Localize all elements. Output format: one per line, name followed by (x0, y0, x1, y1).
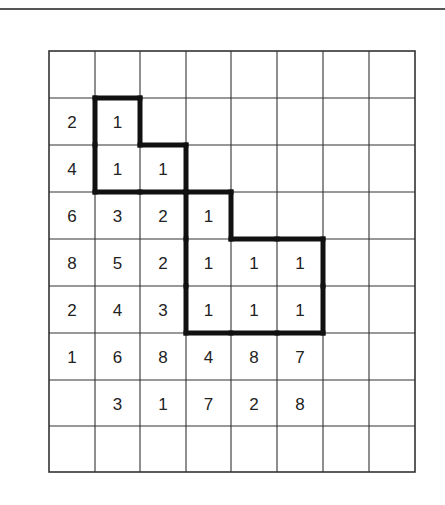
grid-border (49, 51, 415, 472)
grid-cell-value: 1 (249, 254, 258, 273)
grid-cell-value: 1 (295, 254, 304, 273)
grid-cell-value: 8 (249, 348, 258, 367)
grid-cell-value: 3 (113, 395, 122, 414)
grid-cell-value: 2 (158, 207, 167, 226)
grid-cell-value: 7 (204, 395, 213, 414)
grid-cell-value: 1 (249, 301, 258, 320)
grid-cell-value: 1 (67, 348, 76, 367)
grid-cell-value: 8 (67, 254, 76, 273)
grid-cell-value: 1 (113, 160, 122, 179)
grid-cell-value: 1 (204, 207, 213, 226)
grid-cell-value: 4 (113, 301, 122, 320)
grid-cell-value: 1 (158, 395, 167, 414)
grid-cell-value: 1 (295, 301, 304, 320)
grid-cell-value: 4 (67, 160, 76, 179)
grid-cell-value: 3 (158, 301, 167, 320)
number-grid: 21411632185211124311116848731728 (0, 0, 445, 505)
grid-cell-value: 6 (67, 207, 76, 226)
grid-cell-value: 1 (204, 301, 213, 320)
grid-cell-value: 1 (204, 254, 213, 273)
grid-cell-value: 1 (113, 113, 122, 132)
grid-cell-value: 6 (113, 348, 122, 367)
grid-cell-value: 1 (158, 160, 167, 179)
grid-cell-value: 2 (158, 254, 167, 273)
grid-cell-value: 8 (295, 395, 304, 414)
grid-cell-value: 2 (67, 113, 76, 132)
grid-cell-value: 3 (113, 207, 122, 226)
grid-cell-value: 8 (158, 348, 167, 367)
grid-cell-value: 4 (204, 348, 213, 367)
grid-cell-value: 7 (295, 348, 304, 367)
grid-lines (49, 51, 415, 472)
grid-cell-value: 5 (113, 254, 122, 273)
grid-cell-value: 2 (249, 395, 258, 414)
grid-cell-value: 2 (67, 301, 76, 320)
